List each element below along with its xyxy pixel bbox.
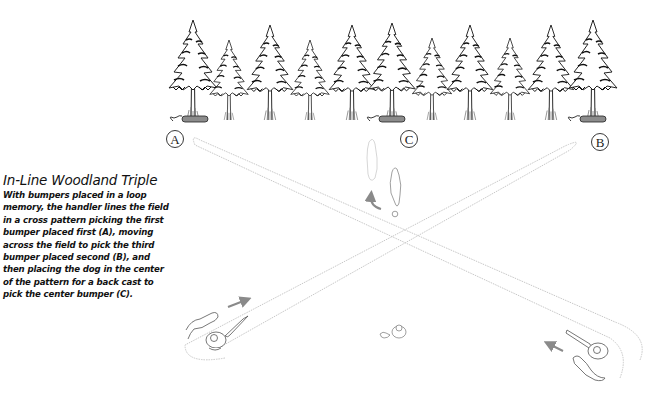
svg-text:B: B xyxy=(596,135,605,150)
caption-body: With bumpers placed in a loop memory, th… xyxy=(3,189,173,301)
tree-icon xyxy=(329,25,375,120)
tree-icon xyxy=(412,38,451,120)
bumper-c-icon xyxy=(367,116,405,122)
tree-icon xyxy=(210,40,248,120)
tree-icon xyxy=(291,40,329,120)
tree-line xyxy=(169,20,617,120)
handler-left-icon xyxy=(186,313,248,351)
tree-icon xyxy=(528,25,574,120)
arrow-right-icon xyxy=(228,300,246,307)
svg-text:C: C xyxy=(405,132,414,147)
caption-title: In-Line Woodland Triple xyxy=(3,172,173,188)
arrow-turn-icon xyxy=(371,196,381,209)
marker-c: C xyxy=(401,131,418,148)
dog-backcast-icon xyxy=(367,139,401,216)
tree-icon xyxy=(569,20,617,120)
bumper-a-icon xyxy=(170,116,208,122)
marker-a: A xyxy=(167,131,184,148)
bumper-b-icon xyxy=(568,116,606,122)
retrieve-paths xyxy=(185,138,642,378)
marker-b: B xyxy=(592,134,609,151)
tree-icon xyxy=(247,25,293,120)
tree-icon xyxy=(490,38,529,120)
svg-text:A: A xyxy=(170,132,180,147)
tree-icon xyxy=(369,23,416,120)
caption: In-Line Woodland Triple With bumpers pla… xyxy=(3,172,173,301)
tree-icon xyxy=(169,20,217,120)
tree-icon xyxy=(447,25,493,120)
arrow-left-icon xyxy=(549,344,563,351)
handler-right-icon xyxy=(566,330,608,381)
handler-center-icon xyxy=(380,325,406,338)
